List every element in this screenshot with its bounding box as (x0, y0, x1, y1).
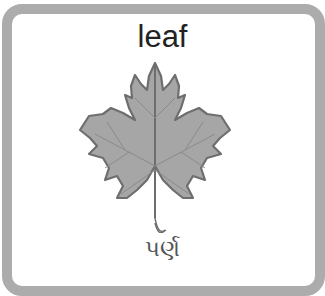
maple-leaf-icon (75, 58, 235, 233)
card-title: leaf (0, 20, 325, 54)
card-translation: પર્ણ (0, 234, 325, 262)
